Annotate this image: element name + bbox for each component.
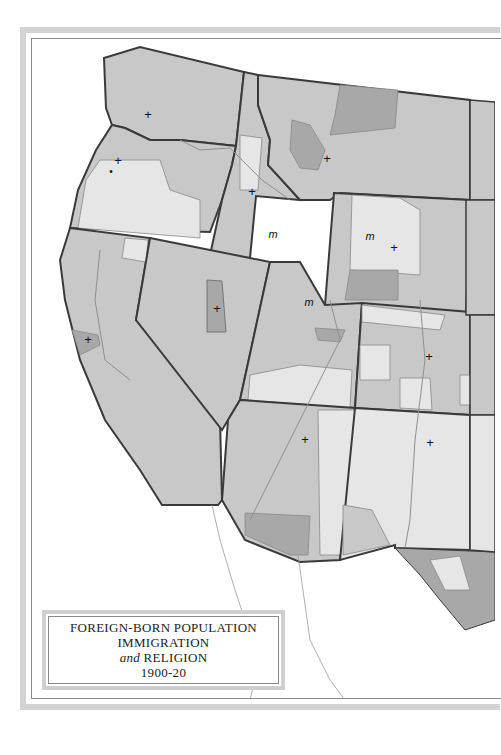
county-utah-dark	[315, 328, 345, 342]
cross-symbol-butte: +	[323, 151, 331, 166]
state-dakota	[470, 100, 495, 200]
mormon-symbol-wyoming: m	[365, 230, 374, 242]
county-idaho-light	[240, 135, 262, 190]
mormon-symbol-utah: m	[304, 296, 313, 308]
cross-symbol-idaho: +	[248, 184, 256, 199]
mexico-coastline	[298, 555, 345, 700]
state-kansas	[470, 315, 495, 415]
cross-symbol-portland: +	[114, 153, 122, 168]
title-and-word: and	[120, 650, 140, 665]
state-nebraska	[466, 200, 495, 315]
state-oklahoma	[470, 415, 495, 552]
county-colorado-light3	[400, 378, 432, 410]
county-california-light	[122, 238, 148, 262]
county-wyoming-dark	[345, 270, 398, 300]
cross-symbol-sf: +	[84, 332, 92, 347]
title-religion: RELIGION	[144, 650, 208, 665]
county-colorado-light2	[360, 345, 390, 380]
title-years: 1900-20	[141, 665, 186, 680]
cross-symbol-denver: +	[425, 349, 433, 364]
title-line-2: IMMIGRATION	[117, 635, 209, 650]
title-line-1: FOREIGN-BORN POPULATION	[70, 620, 257, 635]
mormon-symbol-idaho: m	[268, 228, 277, 240]
dot-symbol-salem: •	[109, 166, 113, 177]
county-wyoming-light	[350, 195, 420, 275]
cross-symbol-nevada: +	[213, 301, 221, 316]
cross-symbol-new-mexico: +	[426, 435, 434, 450]
county-montana-dark-n	[330, 85, 398, 135]
cross-symbol-wyoming: +	[390, 240, 398, 255]
county-colorado-light4	[460, 375, 470, 405]
county-arizona-dark	[245, 513, 310, 555]
cross-symbol-seattle: +	[144, 107, 152, 122]
cross-symbol-arizona: +	[301, 432, 309, 447]
title-line-3: and RELIGION	[120, 650, 208, 665]
map-title-inner: FOREIGN-BORN POPULATION IMMIGRATION and …	[48, 616, 279, 684]
map-title-box: FOREIGN-BORN POPULATION IMMIGRATION and …	[42, 610, 285, 690]
